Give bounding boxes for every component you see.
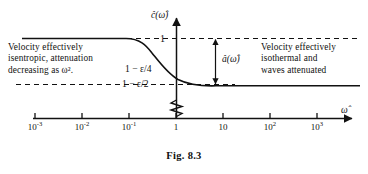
annotation-left-line-3: decreasing as ω². [8, 65, 93, 76]
x-tick-mantissa-0: 10 [28, 122, 37, 132]
x-axis-ticks [35, 113, 317, 119]
figure-8-3: ĉ(ω̂) ω̂ â(ω̂) 1 1 − ε/4 1 − ε/2 10-3 10… [0, 0, 368, 174]
x-tick-mantissa-5: 10 [264, 122, 273, 132]
x-tick-exponent-5: 2 [273, 120, 276, 127]
y-value-label-one: 1 [160, 33, 165, 45]
x-tick-label-6: 103 [311, 122, 323, 133]
x-tick-mantissa-2: 10 [122, 122, 131, 132]
y-axis-label: ĉ(ω̂) [151, 10, 168, 22]
x-axis-label: ω̂ [341, 105, 348, 117]
annotation-left-line-1: Velocity effectively [8, 42, 93, 53]
annotation-right: Velocity effectively isothermal and wave… [261, 42, 336, 76]
x-tick-label-2: 10-1 [122, 122, 137, 133]
x-tick-label-5: 102 [264, 122, 276, 133]
annotation-left-line-2: isentropic, attenuation [8, 53, 93, 64]
x-tick-label-1: 10-2 [75, 122, 90, 133]
y-value-label-eps-over-four: 1 − ε/4 [125, 63, 152, 75]
x-tick-exponent-1: -2 [84, 120, 90, 127]
x-tick-exponent-6: 3 [320, 120, 323, 127]
annotation-right-line-2: isothermal and [261, 53, 336, 64]
figure-caption: Fig. 8.3 [0, 150, 368, 161]
x-tick-mantissa-3: 1 [174, 122, 179, 132]
x-tick-mantissa-4: 10 [219, 122, 228, 132]
annotation-left: Velocity effectively isentropic, attenua… [8, 42, 93, 76]
x-tick-mantissa-6: 10 [311, 122, 320, 132]
x-tick-exponent-0: -3 [37, 120, 43, 127]
annotation-right-line-3: waves attenuated [261, 65, 336, 76]
x-tick-label-0: 10-3 [28, 122, 43, 133]
a-hat-label: â(ω̂) [222, 54, 240, 66]
annotation-right-line-1: Velocity effectively [261, 42, 336, 53]
y-value-label-eps-over-two: 1 − ε/2 [122, 78, 149, 90]
plot-canvas [0, 0, 368, 174]
x-tick-exponent-2: -1 [131, 120, 137, 127]
x-tick-mantissa-1: 10 [75, 122, 84, 132]
x-tick-label-4: 10 [219, 122, 228, 133]
x-tick-label-3: 1 [174, 122, 179, 133]
